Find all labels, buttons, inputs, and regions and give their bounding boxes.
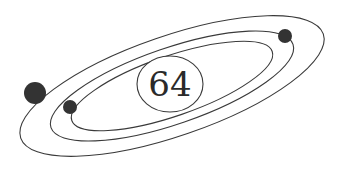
atom-diagram: 64 <box>0 0 344 169</box>
nucleus-label: 64 <box>148 64 191 104</box>
electron-middle <box>278 29 292 43</box>
electron-outer <box>24 82 46 104</box>
electron-inner <box>63 100 77 114</box>
